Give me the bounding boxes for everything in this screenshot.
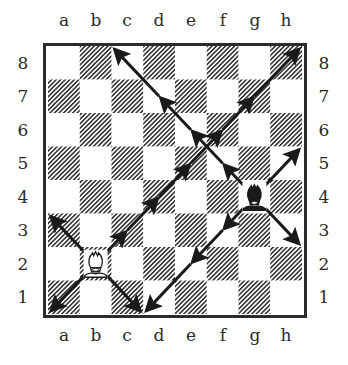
file-label-f-top: f <box>213 12 233 29</box>
square-f8 <box>207 46 239 80</box>
square-c5 <box>112 147 144 181</box>
file-label-e-bottom: e <box>181 327 201 344</box>
rank-label-5-left: 5 <box>13 155 33 172</box>
file-label-c-top: c <box>117 12 137 29</box>
square-a2 <box>48 247 80 281</box>
square-e1 <box>175 281 207 315</box>
file-label-b-top: b <box>86 12 106 29</box>
file-label-h-bottom: h <box>276 327 296 344</box>
square-f4 <box>207 180 239 214</box>
square-g2 <box>239 247 271 281</box>
rank-label-2-right: 2 <box>314 256 334 273</box>
rank-label-5-right: 5 <box>314 155 334 172</box>
rank-label-6-left: 6 <box>13 122 33 139</box>
square-h7 <box>270 80 302 114</box>
square-f1 <box>207 281 239 315</box>
square-d2 <box>143 247 175 281</box>
rank-label-4-right: 4 <box>314 189 334 206</box>
rank-label-8-right: 8 <box>314 55 334 72</box>
square-g5 <box>239 147 271 181</box>
file-label-g-top: g <box>245 12 265 29</box>
square-h6 <box>270 113 302 147</box>
square-e3 <box>175 214 207 248</box>
square-e7 <box>175 80 207 114</box>
file-label-d-bottom: d <box>149 327 169 344</box>
square-h4 <box>270 180 302 214</box>
square-g6 <box>239 113 271 147</box>
black-bishop-icon <box>242 183 266 211</box>
square-b6 <box>80 113 112 147</box>
square-a5 <box>48 147 80 181</box>
square-c7 <box>112 80 144 114</box>
square-c2 <box>112 247 144 281</box>
rank-label-2-left: 2 <box>13 256 33 273</box>
square-b1 <box>80 281 112 315</box>
square-b8 <box>80 46 112 80</box>
file-label-d-top: d <box>149 12 169 29</box>
square-g8 <box>239 46 271 80</box>
square-c6 <box>112 113 144 147</box>
square-d6 <box>143 113 175 147</box>
rank-label-7-left: 7 <box>13 88 33 105</box>
square-h1 <box>270 281 302 315</box>
chessboard <box>48 46 302 314</box>
square-g3 <box>239 214 271 248</box>
rank-label-3-left: 3 <box>13 222 33 239</box>
file-label-a-top: a <box>54 12 74 29</box>
rank-label-6-right: 6 <box>314 122 334 139</box>
rank-label-1-left: 1 <box>13 289 33 306</box>
square-e4 <box>175 180 207 214</box>
rank-label-1-right: 1 <box>314 289 334 306</box>
square-d5 <box>143 147 175 181</box>
square-d8 <box>143 46 175 80</box>
file-label-g-bottom: g <box>245 327 265 344</box>
rank-label-7-right: 7 <box>314 88 334 105</box>
file-label-h-top: h <box>276 12 296 29</box>
square-a7 <box>48 80 80 114</box>
square-c4 <box>112 180 144 214</box>
rank-label-3-right: 3 <box>314 222 334 239</box>
rank-label-8-left: 8 <box>13 55 33 72</box>
file-label-a-bottom: a <box>54 327 74 344</box>
square-d3 <box>143 214 175 248</box>
square-b4 <box>80 180 112 214</box>
square-g1 <box>239 281 271 315</box>
square-a8 <box>48 46 80 80</box>
square-f2 <box>207 247 239 281</box>
square-f7 <box>207 80 239 114</box>
file-label-e-top: e <box>181 12 201 29</box>
square-b3 <box>80 214 112 248</box>
square-b5 <box>80 147 112 181</box>
square-e8 <box>175 46 207 80</box>
square-a4 <box>48 180 80 214</box>
square-h2 <box>270 247 302 281</box>
file-label-b-bottom: b <box>86 327 106 344</box>
square-a6 <box>48 113 80 147</box>
square-b7 <box>80 80 112 114</box>
white-bishop-icon <box>84 250 108 278</box>
rank-label-4-left: 4 <box>13 189 33 206</box>
file-label-f-bottom: f <box>213 327 233 344</box>
file-label-c-bottom: c <box>117 327 137 344</box>
